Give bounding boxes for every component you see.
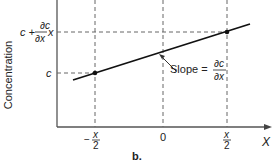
x-tick-right-num: x: [223, 129, 230, 140]
y-tick-upper-suffix: x: [47, 26, 54, 38]
x-axis-label: X: [261, 135, 271, 149]
concentration-gradient-diagram: Concentration c + ∂c ∂x x c − x 2 0 x 2 …: [0, 0, 277, 163]
x-tick-center: 0: [160, 131, 166, 143]
x-axis-arrow-icon: [264, 124, 272, 130]
slope-label: Slope =: [170, 63, 211, 75]
slope-frac-den: ∂x: [214, 71, 225, 82]
y-tick-upper-frac-den: ∂x: [35, 33, 46, 44]
x-tick-left-num: x: [92, 129, 99, 140]
y-axis-label: Concentration: [2, 41, 14, 110]
y-tick-lower: c: [46, 67, 52, 79]
panel-label: b.: [132, 150, 142, 162]
point-upper: [225, 30, 230, 35]
slope-arrow-icon: [159, 54, 165, 59]
x-tick-right-den: 2: [224, 140, 230, 151]
point-lower: [93, 71, 98, 76]
x-tick-left-sign: −: [84, 134, 90, 145]
x-tick-left-den: 2: [93, 140, 99, 151]
slope-frac-num: ∂c: [214, 58, 224, 69]
